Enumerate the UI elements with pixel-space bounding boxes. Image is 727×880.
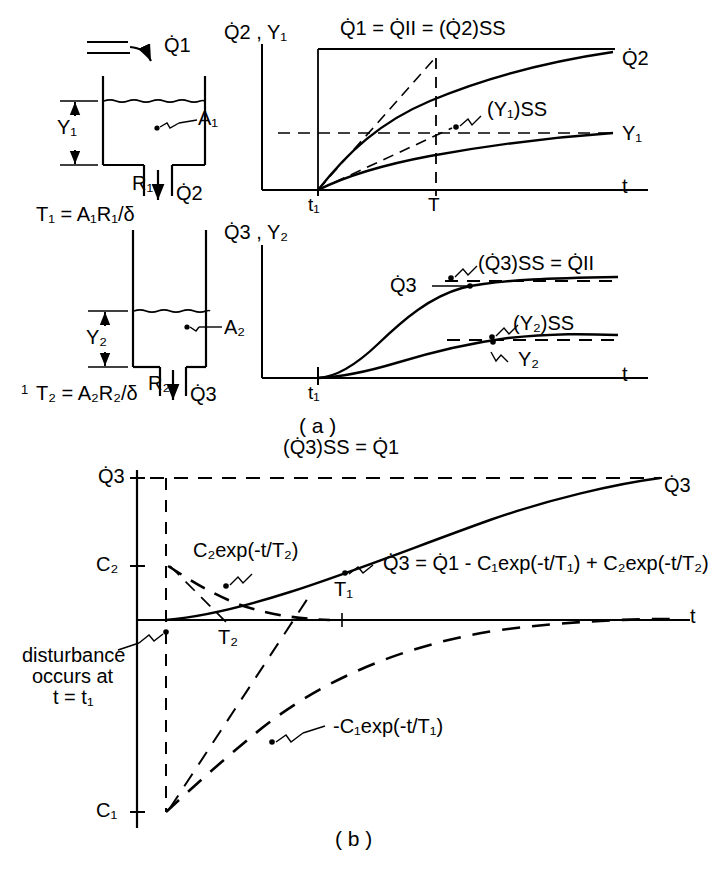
- bottom-chart-y2ss-leader-dot: [489, 334, 495, 340]
- chart-top-right: [262, 44, 648, 196]
- panelb-c2exp-leader-zigzag: [230, 574, 252, 585]
- panelb-x-axis-label: t: [690, 606, 696, 626]
- panelb-T1-label: T₁: [334, 579, 353, 599]
- panelb-main-equation-label: Q̇3 = Q̇1 - C₁exp(-t/T₁) + C₂exp(-t/T₂): [383, 553, 709, 573]
- panelb-c1exp-leader-line: [303, 726, 325, 733]
- bottom-chart-t1-tick-label: t₁: [308, 383, 320, 402]
- inflow-arrow-icon: [130, 47, 151, 61]
- panelb-disturbance-line2: occurs at: [32, 666, 113, 686]
- panelb-disturbance-line1: disturbance: [22, 645, 125, 665]
- tank2-outflow-label: Q̇3: [190, 384, 217, 404]
- chart-panel-b: [118, 470, 690, 828]
- panelb-curve-c2exp: [168, 566, 330, 620]
- panelb-disturbance-leader-dot: [163, 629, 169, 635]
- panelb-c2exp-leader-dot: [223, 583, 229, 589]
- tank2-area-leader-zigzag: [190, 327, 199, 331]
- top-chart-t1-tick-label: t₁: [308, 195, 320, 214]
- panelb-eq-leader-dot: [342, 570, 348, 576]
- panelb-disturbance-line3: t = t₁: [53, 687, 94, 707]
- panelb-c1exp-leader-zigzag: [276, 733, 303, 742]
- tank1-area-label: A₁: [198, 108, 218, 128]
- tank1-liquid-surface: [104, 100, 205, 102]
- panelb-T2-label: T₂: [218, 627, 238, 647]
- panelb-c1exp-leader-dot: [269, 739, 275, 745]
- panelb-c2exp-label: C₂exp(-t/T₂): [193, 540, 299, 560]
- panelb-asymptote-label: (Q̇3)SS = Q̇1: [283, 437, 399, 457]
- tank1-level-label: Y₁: [57, 117, 77, 137]
- panelb-c1exp-label: -C₁exp(-t/T₁): [333, 716, 443, 736]
- panelb-disturbance-leader-zigzag: [139, 634, 163, 643]
- tank1-outflow-label: Q̇2: [176, 183, 203, 203]
- top-chart-y1ss-leader-zigzag: [460, 116, 481, 126]
- tank2-time-constant-formula: T₂ = A₂R₂/δ: [36, 383, 138, 403]
- tank2-area-leader-dot: [184, 324, 189, 329]
- panel-a-caption: ( a ): [299, 415, 336, 436]
- tank2-resistance-label: R₂: [148, 373, 170, 393]
- panelb-c2-tick-label: C₂: [96, 554, 118, 574]
- bottom-chart-y2-leader-dot: [490, 339, 496, 345]
- tank1-time-constant-formula: T₁ = A₁R₁/δ: [36, 204, 135, 224]
- tank1-resistance-label: R₁: [132, 173, 153, 193]
- panelb-c1-tick-label: C₁: [96, 800, 117, 820]
- top-chart-T-tick-label: T: [428, 195, 440, 214]
- top-chart-x-axis-label: t: [622, 176, 628, 196]
- panelb-q3-end-label: Q̇3: [664, 475, 691, 495]
- figure-root: Q̇1 Y₁ A₁ R₁ Q̇2 T₁ = A₁R₁/δ Y₂ A₂ R₂ Q̇…: [0, 0, 727, 880]
- bottom-chart-q3-leader-dot: [467, 283, 473, 289]
- tank2-area-label: A₂: [224, 317, 245, 337]
- tank1-area-leader-zigzag: [160, 123, 179, 128]
- tank2-level-label: Y₂: [86, 327, 107, 347]
- panelb-y-axis-label: Q̇3: [98, 466, 125, 486]
- top-chart-y-axis-label: Q̇2 , Y₁: [224, 22, 287, 42]
- bottom-chart-q3-label: Q̇3: [390, 275, 417, 295]
- bottom-chart-y2-label: Y₂: [518, 349, 539, 369]
- top-chart-q2-end-label: Q̇2: [622, 48, 649, 68]
- tank2-margin-mark: 1: [21, 383, 28, 396]
- tank1-inflow-label: Q̇1: [164, 35, 191, 55]
- tank1-area-leader-dot: [154, 125, 159, 130]
- tank1-area-leader-line: [179, 120, 197, 123]
- bottom-chart-y2ss-label: (Y₂)SS: [513, 313, 574, 333]
- bottom-chart-y-axis-label: Q̇3 , Y₂: [224, 222, 288, 242]
- top-chart-asymptote-label: Q̇1 = Q̇II = (Q̇2)SS: [340, 18, 506, 38]
- bottom-chart-q3ss-label: (Q̇3)SS = Q̇II: [478, 253, 594, 273]
- top-chart-y1-end-label: Y₁: [622, 123, 642, 143]
- top-chart-y1ss-leader-dot: [453, 124, 459, 130]
- top-chart-y1ss-label: (Y₁)SS: [487, 99, 547, 119]
- tank2-liquid-surface: [134, 310, 210, 312]
- bottom-chart-q3ss-leader-zigzag: [455, 266, 477, 277]
- bottom-chart-y2-leader-zigzag: [491, 352, 508, 362]
- panel-b-caption: ( b ): [335, 828, 372, 849]
- bottom-chart-x-axis-label: t: [622, 364, 628, 384]
- bottom-chart-q3ss-leader-dot: [448, 275, 454, 281]
- panelb-tangent-c1: [170, 595, 310, 808]
